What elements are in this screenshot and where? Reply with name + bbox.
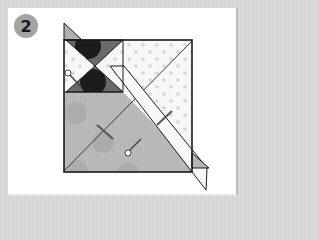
origami-diagram <box>0 0 247 206</box>
light-circle <box>92 131 114 153</box>
top-flap <box>64 23 82 40</box>
light-circle <box>65 102 87 124</box>
tail-triangle <box>192 153 209 168</box>
light-circle <box>116 163 140 187</box>
light-circle <box>68 160 88 180</box>
